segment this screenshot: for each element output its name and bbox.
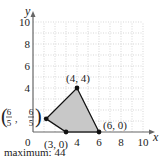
vertex-point: [75, 86, 80, 91]
vertex-point: [64, 130, 69, 135]
x-tick-label: 6: [96, 136, 102, 148]
vertex-point: [97, 130, 102, 135]
vertex-point: [44, 116, 49, 121]
y-tick-label: 6: [25, 60, 31, 72]
svg-text:5: 5: [29, 118, 34, 128]
y-axis-label: y: [24, 4, 31, 18]
vertex-label-6-0: (6, 0): [103, 119, 127, 132]
svg-text:6: 6: [29, 107, 34, 117]
svg-text:5: 5: [7, 118, 12, 128]
svg-text:,: ,: [15, 113, 18, 124]
svg-text:6: 6: [7, 107, 12, 117]
chart: 4681046810 x y 0 (4, 4) (6, 0) (3, 0) ( …: [0, 0, 161, 161]
maximum-caption: maximum: 44: [4, 146, 65, 158]
x-axis-label: x: [152, 130, 159, 144]
x-tick-label: 10: [138, 136, 150, 148]
vertex-label-6-5: ( 6 5 , 6 5 ): [1, 105, 42, 128]
vertex-label-4-4: (4, 4): [66, 72, 90, 85]
x-tick-label: 8: [118, 136, 124, 148]
svg-text:): ): [35, 105, 42, 128]
y-tick-label: 8: [25, 38, 31, 50]
y-axis-arrow-icon: [31, 11, 36, 17]
y-tick-label: 4: [25, 82, 31, 94]
x-tick-label: 4: [74, 136, 80, 148]
